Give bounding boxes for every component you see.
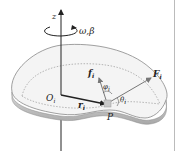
diagram-canvas: z ω,β Oi ri fi Fi φi θi P (0, 0, 178, 151)
omega-label: ω,β (79, 26, 94, 36)
theta-label: θi (120, 96, 126, 105)
phi-label: φi (103, 83, 110, 92)
point-label: P (106, 112, 114, 122)
rigid-body-diagram: z ω,β Oi ri fi Fi φi θi P (0, 0, 178, 151)
point-p-marker (104, 100, 111, 107)
z-axis-label: z (51, 12, 57, 21)
external-force-label: Fi (152, 69, 162, 80)
